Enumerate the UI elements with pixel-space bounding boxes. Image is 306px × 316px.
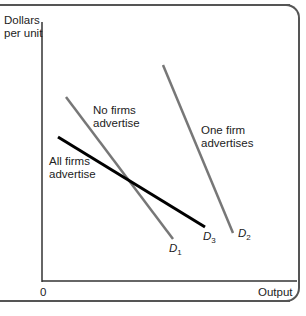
annotation-all-firms-line2: advertise: [49, 168, 96, 181]
curve-label-d2: D2: [238, 227, 251, 242]
demand-chart: [0, 0, 306, 316]
annotation-no-firms-line2: advertise: [93, 117, 140, 130]
curve-label-d1: D1: [169, 242, 182, 257]
x-axis-label: Output: [258, 286, 293, 299]
annotation-one-firm: One firm advertises: [201, 124, 253, 150]
annotation-no-firms-line1: No firms: [93, 104, 140, 117]
y-axis-label: Dollars per unit: [4, 14, 42, 40]
annotation-one-firm-line2: advertises: [201, 137, 253, 150]
origin-label: 0: [40, 286, 46, 299]
annotation-all-firms: All firms advertise: [49, 155, 96, 181]
curve-d3: [58, 137, 205, 227]
annotation-one-firm-line1: One firm: [201, 124, 253, 137]
curve-label-d2-sub: 2: [246, 233, 250, 242]
curve-label-d3-sub: 3: [211, 236, 215, 245]
annotation-no-firms: No firms advertise: [93, 104, 140, 130]
curve-label-d3: D3: [203, 230, 216, 245]
curve-label-d1-sub: 1: [177, 248, 181, 257]
y-axis-label-line2: per unit: [4, 27, 42, 40]
y-axis-label-line1: Dollars: [4, 14, 42, 27]
annotation-all-firms-line1: All firms: [49, 155, 96, 168]
